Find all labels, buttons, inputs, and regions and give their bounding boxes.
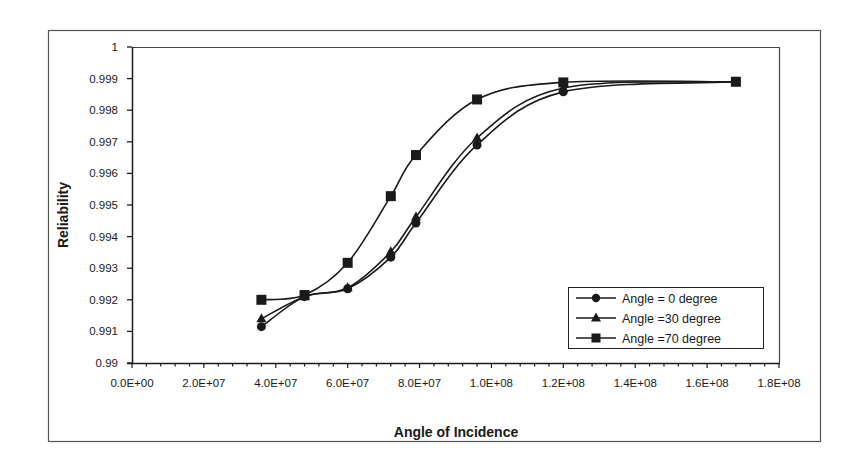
y-tick-label: 0.999 xyxy=(89,73,118,85)
square-marker-icon xyxy=(256,295,266,305)
y-tick-label: 0.997 xyxy=(89,136,118,148)
x-tick-label: 6.0E+07 xyxy=(326,377,369,389)
y-tick-label: 0.99 xyxy=(96,357,118,369)
x-tick-label: 8.0E+07 xyxy=(398,377,441,389)
y-tick-label: 0.998 xyxy=(89,104,118,116)
x-tick-label: 2.0E+07 xyxy=(182,377,225,389)
circle-marker-icon xyxy=(592,294,600,302)
series-square xyxy=(256,77,740,305)
y-tick-label: 0.995 xyxy=(89,199,118,211)
y-tick-label: 0.992 xyxy=(89,294,118,306)
triangle-marker-icon xyxy=(472,133,482,142)
square-marker-icon xyxy=(558,77,568,87)
x-tick-label: 1.0E+08 xyxy=(470,377,513,389)
x-axis: 0.0E+002.0E+074.0E+076.0E+078.0E+071.0E+… xyxy=(110,363,800,389)
y-tick-label: 1 xyxy=(112,41,118,53)
square-marker-icon xyxy=(300,290,310,300)
legend: Angle = 0 degree Angle =30 degree Angle … xyxy=(569,288,764,349)
legend-label: Angle =70 degree xyxy=(622,332,721,346)
series-line xyxy=(261,81,735,300)
series-triangle xyxy=(256,76,740,322)
y-tick-label: 0.993 xyxy=(89,262,118,274)
y-axis-title: Reliability xyxy=(55,182,71,248)
square-marker-icon xyxy=(343,258,353,268)
circle-marker-icon xyxy=(257,322,266,331)
x-tick-label: 0.0E+00 xyxy=(110,377,153,389)
reliability-chart: 0.990.9910.9920.9930.9940.9950.9960.9970… xyxy=(0,0,860,474)
y-tick-label: 0.996 xyxy=(89,167,118,179)
square-marker-icon xyxy=(386,191,396,201)
y-tick-label: 0.994 xyxy=(89,231,118,243)
x-tick-label: 4.0E+07 xyxy=(254,377,297,389)
square-marker-icon xyxy=(411,150,421,160)
square-marker-icon xyxy=(472,94,482,104)
square-marker-icon xyxy=(592,334,601,343)
legend-label: Angle =30 degree xyxy=(622,312,721,326)
x-tick-label: 1.8E+08 xyxy=(757,377,800,389)
y-axis: 0.990.9910.9920.9930.9940.9950.9960.9970… xyxy=(89,41,132,369)
x-tick-label: 1.2E+08 xyxy=(542,377,585,389)
square-marker-icon xyxy=(731,77,741,87)
legend-label: Angle = 0 degree xyxy=(622,292,718,306)
x-tick-label: 1.6E+08 xyxy=(686,377,729,389)
x-tick-label: 1.4E+08 xyxy=(614,377,657,389)
y-tick-label: 0.991 xyxy=(89,325,118,337)
series-line xyxy=(261,82,735,319)
x-axis-title: Angle of Incidence xyxy=(394,424,519,440)
